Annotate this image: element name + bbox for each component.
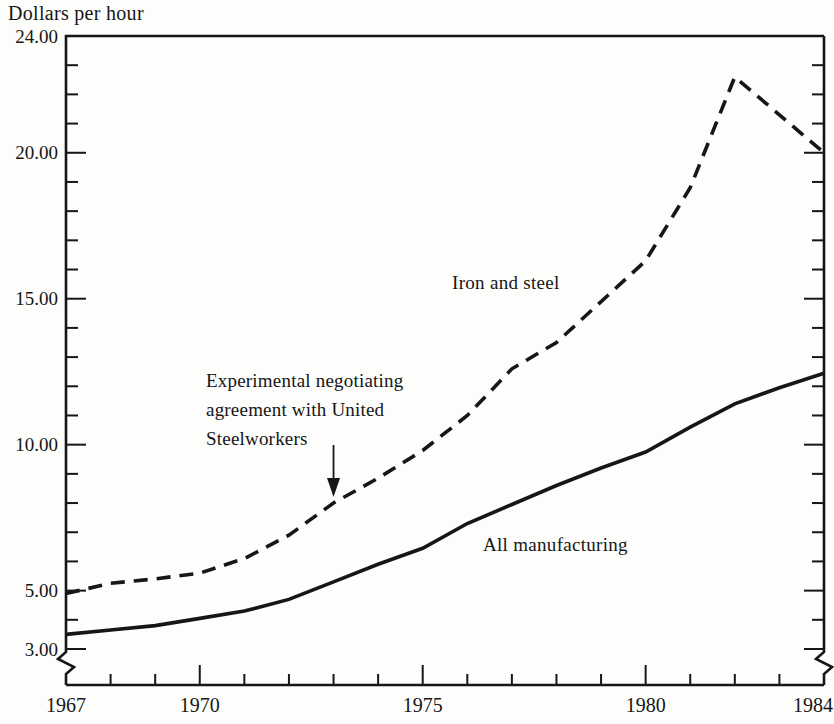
y-axis-ticks [66,65,824,649]
y-axis-unit-title: Dollars per hour [8,2,144,25]
x-tick-label: 1984 [793,694,833,716]
y-tick-label: 20.00 [15,142,58,163]
ena-annotation-line-3: Steelworkers [206,424,403,453]
series-label-iron-and-steel: Iron and steel [452,272,560,294]
x-tick-label: 1970 [180,694,220,716]
iron-and-steel-line [66,77,824,594]
x-axis-ticks [66,665,824,685]
ena-annotation: Experimental negotiating agreement with … [206,366,403,453]
axes-frame [58,36,832,685]
y-tick-label: 5.00 [25,580,58,601]
y-axis-labels: 24.0020.0015.0010.005.003.00 [15,26,58,660]
y-tick-label: 24.00 [15,26,58,47]
x-tick-label: 1975 [403,694,443,716]
ena-annotation-line-2: agreement with United [206,395,403,424]
y-tick-label: 3.00 [25,639,58,660]
series-label-all-manufacturing: All manufacturing [483,534,628,556]
hourly-wage-chart-figure: 24.0020.0015.0010.005.003.00196719701975… [0,0,834,724]
ena-annotation-line-1: Experimental negotiating [206,366,403,395]
chart-canvas: 24.0020.0015.0010.005.003.00196719701975… [0,0,834,724]
x-tick-label: 1967 [46,694,86,716]
y-tick-label: 15.00 [15,288,58,309]
x-tick-label: 1980 [626,694,666,716]
all-manufacturing-line [66,373,824,634]
y-tick-label: 10.00 [15,434,58,455]
x-axis-labels: 19671970197519801984 [46,694,833,716]
